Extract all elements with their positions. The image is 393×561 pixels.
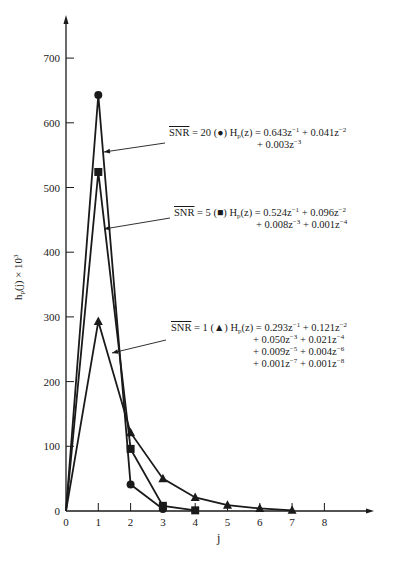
x-tick-label: 0 bbox=[63, 516, 69, 528]
annotation-snr-5: SNR = 5 (■) Hp(z) = 0.524z−1 + 0.096z−2 … bbox=[174, 207, 347, 231]
circle-marker-icon bbox=[94, 91, 102, 99]
triangle-marker-icon bbox=[94, 316, 103, 325]
y-tick-label: 0 bbox=[55, 505, 61, 517]
annotation-arrows bbox=[104, 143, 170, 354]
x-tick-label: 6 bbox=[257, 516, 263, 528]
y-axis-arrow-icon bbox=[64, 15, 69, 24]
chart-canvas: 0100200300400500600700012345678 bbox=[0, 0, 393, 561]
y-tick-label: 400 bbox=[44, 246, 61, 258]
annotation-arrow-line bbox=[104, 143, 165, 152]
x-tick-label: 3 bbox=[160, 516, 166, 528]
y-tick-label: 700 bbox=[44, 52, 61, 64]
annotation-arrow-line bbox=[104, 218, 170, 229]
triangle-marker-icon bbox=[191, 492, 200, 501]
x-tick-label: 4 bbox=[192, 516, 198, 528]
square-marker-icon bbox=[127, 445, 135, 453]
x-axis-arrow-icon bbox=[366, 509, 374, 514]
series-group bbox=[66, 91, 297, 514]
y-tick-label: 200 bbox=[44, 376, 61, 388]
x-axis-label: j bbox=[217, 531, 220, 546]
axes: 0100200300400500600700012345678 bbox=[44, 15, 375, 528]
square-marker-icon bbox=[94, 168, 102, 176]
x-tick-label: 7 bbox=[289, 516, 295, 528]
x-tick-label: 2 bbox=[128, 516, 134, 528]
x-tick-label: 8 bbox=[322, 516, 328, 528]
annotation-arrow-line bbox=[112, 340, 166, 353]
annotation-snr-20: SNR = 20 (●) Hp(z) = 0.643z−1 + 0.041z−2… bbox=[169, 127, 346, 151]
y-tick-label: 600 bbox=[44, 117, 61, 129]
square-marker-icon bbox=[191, 506, 199, 514]
annotation-snr-1: SNR = 1 (▲) Hp(z) = 0.293z−1 + 0.121z−2 … bbox=[171, 322, 347, 370]
x-tick-label: 5 bbox=[225, 516, 231, 528]
y-tick-label: 500 bbox=[44, 182, 61, 194]
y-tick-label: 100 bbox=[44, 440, 61, 452]
square-marker-icon bbox=[159, 502, 167, 510]
y-axis-label: hp(j) × 103 bbox=[12, 254, 24, 300]
x-tick-label: 1 bbox=[96, 516, 102, 528]
arrowhead-icon bbox=[104, 149, 110, 154]
circle-marker-icon bbox=[127, 480, 135, 488]
y-tick-label: 300 bbox=[44, 311, 61, 323]
